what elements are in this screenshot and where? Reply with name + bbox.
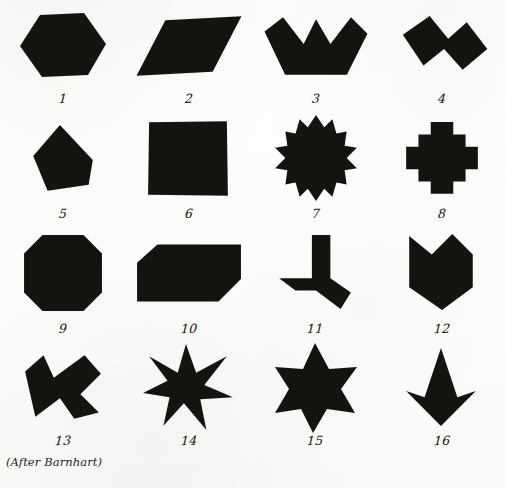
hexagon-shape-icon xyxy=(11,9,115,83)
shape-cell-5[interactable]: 5 xyxy=(0,115,126,230)
shape-art-12 xyxy=(388,234,496,312)
shape-label-8: 8 xyxy=(437,206,446,221)
shape-label-15: 15 xyxy=(307,433,324,448)
shape-art-14 xyxy=(135,349,243,427)
zigzag-shape-icon xyxy=(390,12,494,80)
shape-cell-2[interactable]: 2 xyxy=(126,0,252,115)
shape-label-3: 3 xyxy=(311,91,320,106)
shape-art-11 xyxy=(262,234,370,312)
shape-cell-6[interactable]: 6 xyxy=(126,115,252,230)
shape-cell-3[interactable]: 3 xyxy=(253,0,379,115)
shape-art-9 xyxy=(9,234,117,312)
shape-label-14: 14 xyxy=(181,433,198,448)
shape-label-9: 9 xyxy=(59,321,68,336)
shape-grid: 1 2 3 4 xyxy=(0,0,505,460)
shape-art-4 xyxy=(388,9,496,83)
kite-shape-icon xyxy=(404,348,480,428)
shape-label-10: 10 xyxy=(181,321,198,336)
shape-cell-11[interactable]: 11 xyxy=(253,230,379,345)
star-six-spiked-icon xyxy=(143,344,235,432)
square-shape-icon xyxy=(145,118,233,200)
cross-shape-icon xyxy=(400,120,484,198)
shape-art-8 xyxy=(388,119,496,199)
shape-label-2: 2 xyxy=(185,91,194,106)
shape-cell-8[interactable]: 8 xyxy=(379,115,505,230)
crown-shape-icon xyxy=(262,11,370,81)
shape-art-7 xyxy=(262,119,370,199)
shape-art-1 xyxy=(9,9,117,83)
shape-art-10 xyxy=(135,234,243,312)
figure-plate: 1 2 3 4 xyxy=(0,0,505,488)
star-of-david-icon xyxy=(272,341,360,435)
shape-cell-1[interactable]: 1 xyxy=(0,0,126,115)
shape-label-6: 6 xyxy=(185,206,194,221)
shape-cell-15[interactable]: 15 xyxy=(253,345,379,460)
shape-cell-13[interactable]: 13 xyxy=(0,345,126,460)
chevron-down-shape-icon xyxy=(407,232,477,314)
shape-label-5: 5 xyxy=(59,206,68,221)
shape-art-2 xyxy=(135,9,243,83)
shape-cell-12[interactable]: 12 xyxy=(379,230,505,345)
pinwheel-shape-icon xyxy=(277,233,355,313)
shape-art-16 xyxy=(388,349,496,427)
shape-label-12: 12 xyxy=(433,321,450,336)
shape-label-13: 13 xyxy=(54,433,71,448)
shape-cell-16[interactable]: 16 xyxy=(379,345,505,460)
pentagon-shape-icon xyxy=(24,121,102,197)
clipped-rectangle-shape-icon xyxy=(135,240,243,306)
shape-label-4: 4 xyxy=(437,91,446,106)
shape-art-15 xyxy=(262,349,370,427)
shape-art-5 xyxy=(9,119,117,199)
shape-art-13 xyxy=(9,349,117,427)
shape-art-6 xyxy=(135,119,243,199)
shape-label-11: 11 xyxy=(307,321,324,336)
shape-label-1: 1 xyxy=(59,91,68,106)
shape-cell-9[interactable]: 9 xyxy=(0,230,126,345)
octagon-shape-icon xyxy=(22,233,104,313)
shape-cell-10[interactable]: 10 xyxy=(126,230,252,345)
shape-label-7: 7 xyxy=(311,206,320,221)
shape-label-16: 16 xyxy=(433,433,450,448)
shape-cell-14[interactable]: 14 xyxy=(126,345,252,460)
shape-art-3 xyxy=(262,9,370,83)
credit-line: (After Barnhart) xyxy=(6,455,102,469)
stepped-diamond-shape-icon xyxy=(273,113,359,205)
shape-cell-4[interactable]: 4 xyxy=(379,0,505,115)
shape-cell-7[interactable]: 7 xyxy=(253,115,379,230)
bowtie-shape-icon xyxy=(21,353,105,423)
parallelogram-shape-icon xyxy=(134,10,244,82)
